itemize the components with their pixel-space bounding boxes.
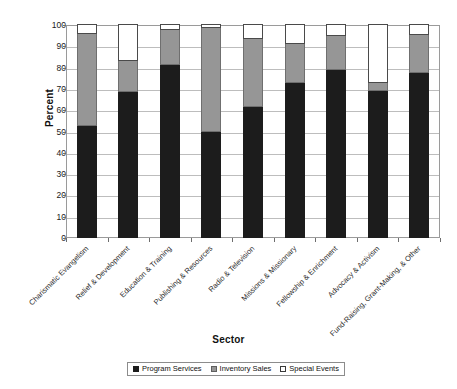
x-axis-title: Sector: [0, 334, 457, 345]
bar-segment-special-events[interactable]: [243, 24, 263, 39]
bar-slot[interactable]: [66, 25, 108, 238]
legend-label: Program Services: [142, 365, 202, 373]
bar-segment-inventory-sales[interactable]: [409, 34, 429, 73]
bar-segment-inventory-sales[interactable]: [243, 38, 263, 107]
bar-segment-special-events[interactable]: [77, 24, 97, 34]
bar-segment-inventory-sales[interactable]: [368, 82, 388, 92]
bar-segment-inventory-sales[interactable]: [118, 60, 138, 92]
bar-segment-inventory-sales[interactable]: [77, 33, 97, 127]
legend-swatch-icon: [280, 366, 286, 372]
bar-segment-special-events[interactable]: [201, 24, 221, 28]
bar-segment-special-events[interactable]: [326, 24, 346, 36]
legend-label: Inventory Sales: [220, 365, 272, 373]
bar-segment-inventory-sales[interactable]: [201, 27, 221, 131]
legend-swatch-icon: [211, 366, 217, 372]
legend-item[interactable]: Program Services: [133, 365, 202, 373]
chart-legend: Program ServicesInventory SalesSpecial E…: [127, 362, 345, 376]
bar-segment-inventory-sales[interactable]: [285, 43, 305, 82]
bar-segment-program-services[interactable]: [201, 131, 221, 239]
bar-stack[interactable]: [77, 25, 97, 238]
legend-swatch-icon: [133, 366, 139, 372]
stacked-bar-chart: Percent 1009080706050403020100 Charismat…: [0, 0, 457, 389]
bar-segment-special-events[interactable]: [285, 24, 305, 44]
legend-item[interactable]: Inventory Sales: [211, 365, 272, 373]
bar-segment-inventory-sales[interactable]: [160, 29, 180, 65]
bar-segment-inventory-sales[interactable]: [326, 35, 346, 70]
bar-segment-special-events[interactable]: [368, 24, 388, 83]
legend-item[interactable]: Special Events: [280, 365, 339, 373]
bar-segment-special-events[interactable]: [409, 24, 429, 35]
bar-segment-program-services[interactable]: [77, 125, 97, 238]
legend-label: Special Events: [289, 365, 339, 373]
bar-segment-special-events[interactable]: [118, 24, 138, 61]
x-axis-category-labels: Charismatic EvangelismRelief & Developme…: [0, 238, 457, 333]
bar-segment-special-events[interactable]: [160, 24, 180, 30]
